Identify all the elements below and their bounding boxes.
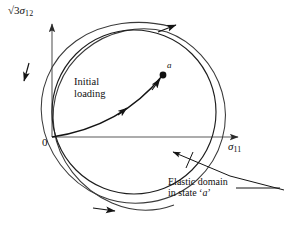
elastic-domain-label-line2: in state ‘a’ — [168, 187, 228, 198]
initial-loading-label: Initial loading — [74, 76, 106, 100]
y-axis-label-subscript: 12 — [25, 9, 33, 18]
initial-loading-curve — [52, 76, 162, 137]
x-axis-label: σ11 — [228, 140, 241, 155]
x-axis-label-subscript: 11 — [233, 145, 241, 154]
initial-loading-label-line1: Initial — [74, 76, 106, 88]
spiral-arrow-group — [24, 25, 176, 211]
origin-label: 0 — [42, 136, 48, 148]
elastic-domain-label-line1: Elastic domain — [168, 176, 228, 187]
outer-spiral-arc-second — [53, 29, 174, 210]
initial-loading-arrow-mid — [118, 108, 127, 115]
state-point-a-dot — [160, 72, 167, 79]
elastic-domain-label: Elastic domain in state ‘a’ — [168, 176, 228, 198]
state-point-a-label: a — [167, 60, 172, 70]
elastic-domain-leader-arrow — [173, 152, 230, 176]
spiral-arrow-bottom — [93, 208, 115, 211]
elastic-domain-label-line2-pre: in state ‘ — [168, 187, 202, 198]
initial-loading-group — [52, 76, 162, 137]
figure-canvas: √3σ12 σ11 0 a Initial loading Elastic do… — [0, 0, 284, 228]
elastic-domain-label-line2-post: ’ — [207, 187, 210, 198]
initial-loading-arrow-end — [152, 79, 160, 90]
figure-vector-graphics — [0, 0, 284, 228]
spiral-arrow-left — [24, 63, 29, 81]
initial-loading-label-line2: loading — [74, 88, 106, 100]
elastic-domain-circle — [52, 30, 216, 194]
y-axis-label: √3σ12 — [8, 4, 33, 19]
y-axis-label-prefix: √3 — [8, 4, 20, 16]
